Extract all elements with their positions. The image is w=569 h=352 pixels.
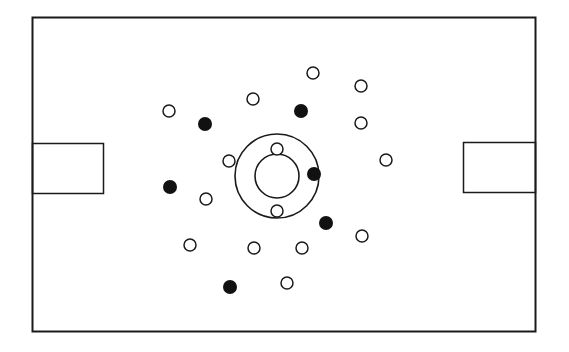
right-goal-box xyxy=(464,143,536,193)
player-open-o9 xyxy=(271,205,283,217)
player-open-o15 xyxy=(281,277,293,289)
player-filled-f5 xyxy=(319,216,333,230)
player-filled-f6 xyxy=(223,280,237,294)
left-goal-box xyxy=(33,144,104,194)
player-open-o2 xyxy=(247,93,259,105)
player-open-o13 xyxy=(296,242,308,254)
player-open-o3 xyxy=(307,67,319,79)
player-open-o5 xyxy=(355,117,367,129)
player-open-o7 xyxy=(223,155,235,167)
center-circle-inner xyxy=(255,154,299,198)
player-filled-f1 xyxy=(198,117,212,131)
player-open-o1 xyxy=(163,105,175,117)
player-open-o10 xyxy=(200,193,212,205)
player-open-o14 xyxy=(356,230,368,242)
player-open-o6 xyxy=(380,154,392,166)
player-filled-f4 xyxy=(307,167,321,181)
player-open-o12 xyxy=(248,242,260,254)
player-open-o8 xyxy=(271,143,283,155)
player-open-o4 xyxy=(355,80,367,92)
player-open-o11 xyxy=(184,239,196,251)
player-filled-f3 xyxy=(163,180,177,194)
field-diagram xyxy=(0,0,569,352)
player-filled-f2 xyxy=(294,104,308,118)
